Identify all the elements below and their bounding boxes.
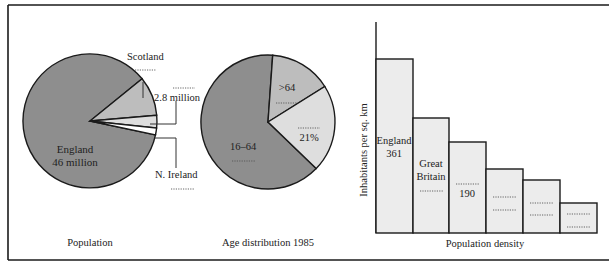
population-pie: Scotland 2.8 million N. Ireland England … [23,51,201,248]
label-16-64: 16–64 [230,141,257,152]
label-wales-value: 2.8 million [154,92,201,103]
bar-label-3-value: 190 [459,188,475,199]
density-bar-chart: Inhabitants per sq. km England 361 Great… [358,22,597,249]
caption-age-distribution: Age distribution 1985 [222,237,314,248]
bar-label-gb-line1: Great [419,158,442,169]
leader-n-ireland [155,138,176,168]
chart-figure: Scotland 2.8 million N. Ireland England … [0,0,609,266]
label-n-ireland: N. Ireland [155,169,198,180]
label-england-value: 46 million [52,156,98,168]
caption-population: Population [67,237,113,248]
label-scotland: Scotland [127,51,164,62]
bar-label-england-name: England [377,135,413,146]
y-axis-label: Inhabitants per sq. km [358,103,369,196]
label-england-name: England [57,143,94,155]
bar-4 [486,169,523,233]
bar-england [376,59,413,233]
bar-6 [560,203,597,233]
label-over-64: >64 [279,82,296,93]
caption-population-density: Population density [446,238,525,249]
label-under-16-value: 21% [299,132,319,143]
age-pie: >64 21% 16–64 Age distribution 1985 [201,55,335,248]
bar-label-england-value: 361 [386,148,402,159]
bar-label-gb-line2: Britain [416,171,446,182]
bar-5 [523,180,560,233]
